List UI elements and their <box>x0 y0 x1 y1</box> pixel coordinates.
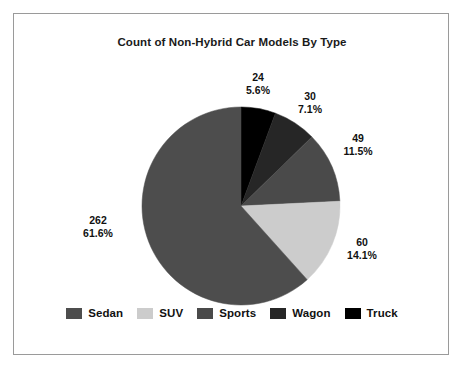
chart-frame: Count of Non-Hybrid Car Models By Type 2… <box>13 13 449 355</box>
legend-swatch-sports <box>197 308 213 319</box>
legend-item-sports[interactable]: Sports <box>197 307 256 319</box>
legend-swatch-sedan <box>66 308 82 319</box>
slice-label-sedan-percent: 61.6% <box>60 227 136 240</box>
chart-legend: SedanSUVSportsWagonTruck <box>14 307 450 319</box>
legend-item-sedan[interactable]: Sedan <box>66 307 123 319</box>
legend-label-suv: SUV <box>159 307 183 319</box>
pie-svg <box>141 106 341 306</box>
slice-label-truck-value: 24 <box>220 71 296 84</box>
legend-label-sedan: Sedan <box>88 307 123 319</box>
legend-label-sports: Sports <box>219 307 256 319</box>
slice-label-sports-value: 49 <box>320 132 396 145</box>
slice-label-wagon-value: 30 <box>272 90 348 103</box>
legend-item-suv[interactable]: SUV <box>137 307 183 319</box>
slice-label-suv: 60 14.1% <box>324 236 400 261</box>
pie-slices <box>142 107 340 305</box>
slice-label-wagon-percent: 7.1% <box>272 103 348 116</box>
slice-label-sedan-value: 262 <box>60 214 136 227</box>
slice-label-sedan: 262 61.6% <box>60 214 136 239</box>
legend-label-truck: Truck <box>367 307 398 319</box>
legend-item-wagon[interactable]: Wagon <box>270 307 330 319</box>
slice-label-sports-percent: 11.5% <box>320 145 396 158</box>
legend-swatch-truck <box>345 308 361 319</box>
legend-item-truck[interactable]: Truck <box>345 307 398 319</box>
pie-chart-area: 24 5.6% 30 7.1% 49 11.5% 60 14.1% 262 61… <box>14 14 450 356</box>
slice-label-suv-value: 60 <box>324 236 400 249</box>
slice-label-wagon: 30 7.1% <box>272 90 348 115</box>
slice-label-suv-percent: 14.1% <box>324 249 400 262</box>
legend-swatch-wagon <box>270 308 286 319</box>
legend-label-wagon: Wagon <box>292 307 330 319</box>
legend-swatch-suv <box>137 308 153 319</box>
slice-label-sports: 49 11.5% <box>320 132 396 157</box>
